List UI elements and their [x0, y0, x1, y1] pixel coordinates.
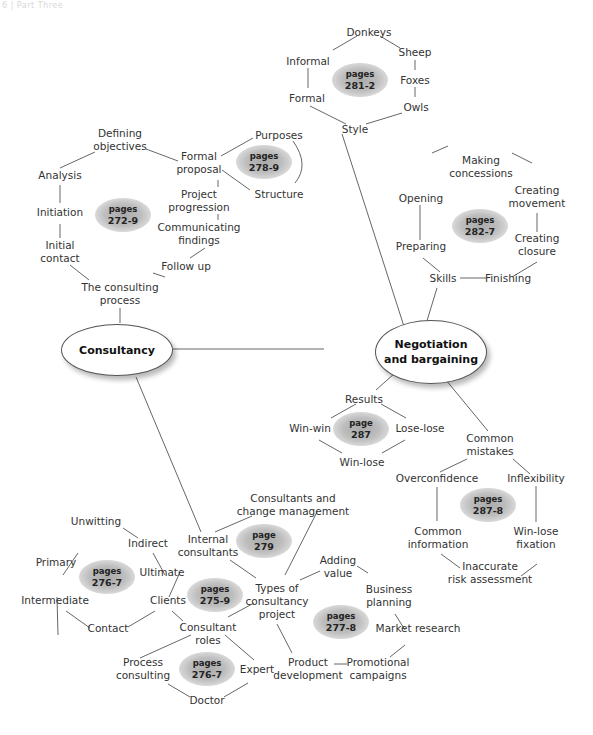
node-opening: Opening [399, 192, 443, 205]
page-ref-proposal: pages278-9 [236, 145, 292, 179]
page-ref-mistakes: pages287-8 [460, 488, 516, 522]
node-inaccurate-risk: Inaccuraterisk assessment [448, 560, 532, 586]
node-owls: Owls [403, 101, 428, 114]
node-ultimate: Ultimate [140, 566, 185, 579]
node-preparing: Preparing [396, 240, 446, 253]
node-expert: Expert [240, 663, 274, 676]
node-indirect: Indirect [128, 537, 168, 550]
node-win-lose-fixation: Win-losefixation [514, 525, 559, 551]
node-promotional-campaigns: Promotionalcampaigns [347, 656, 410, 682]
node-creating-closure: Creatingclosure [515, 232, 560, 258]
node-formal: Formal [289, 92, 325, 105]
node-internal-consultants: Internalconsultants [178, 533, 239, 559]
hub-negotiation-label-1: Negotiation [395, 337, 468, 352]
node-making-concessions: Makingconcessions [449, 154, 513, 180]
hub-consultancy[interactable]: Consultancy [61, 324, 173, 376]
node-unwitting: Unwitting [71, 515, 121, 528]
hub-consultancy-label: Consultancy [79, 343, 155, 358]
node-donkeys: Donkeys [346, 26, 391, 39]
node-consulting-process: The consultingprocess [81, 281, 158, 307]
node-results: Results [345, 393, 383, 406]
node-product-development: Productdevelopment [273, 656, 342, 682]
node-sheep: Sheep [399, 46, 432, 59]
page-ref-skills: pages282-7 [452, 209, 508, 243]
node-consultants-change: Consultants andchange management [237, 492, 349, 518]
node-defining-objectives: Definingobjectives [93, 127, 146, 153]
node-common-mistakes: Commonmistakes [466, 432, 513, 458]
node-initial-contact: Initialcontact [40, 239, 79, 265]
node-analysis: Analysis [38, 169, 81, 182]
node-style: Style [342, 123, 368, 136]
page-ref-clients-types: pages276-7 [79, 560, 135, 594]
node-clients: Clients [150, 594, 186, 607]
node-types-of-project: Types ofconsultancyproject [245, 582, 308, 621]
node-primary: Primary [36, 556, 77, 569]
node-win-lose: Win-lose [340, 456, 385, 469]
node-informal: Informal [286, 55, 330, 68]
node-market-research: Market research [376, 622, 461, 635]
page-ref-internal: page279 [236, 524, 292, 558]
page-ref-process: pages272-9 [95, 198, 151, 232]
node-inflexibility: Inflexibility [507, 472, 565, 485]
node-purposes: Purposes [255, 129, 303, 142]
node-formal-proposal: Formalproposal [176, 150, 221, 176]
node-contact: Contact [88, 622, 129, 635]
page-ref-clients: pages275-9 [187, 578, 243, 612]
hub-negotiation-label-2: and bargaining [384, 352, 478, 367]
node-adding-value: Addingvalue [320, 554, 357, 580]
node-lose-lose: Lose-lose [395, 422, 444, 435]
page-ref-style: pages281-2 [332, 63, 388, 97]
node-process-consulting: Processconsulting [116, 656, 170, 682]
node-project-progression: Projectprogression [168, 188, 229, 214]
node-initiation: Initiation [37, 206, 83, 219]
node-structure: Structure [255, 188, 304, 201]
page-ref-results: page287 [333, 412, 389, 446]
node-communicating-findings: Communicatingfindings [157, 221, 240, 247]
node-common-information: Commoninformation [408, 525, 469, 551]
node-win-win: Win-win [289, 422, 331, 435]
node-business-planning: Businessplanning [366, 583, 412, 609]
node-doctor: Doctor [189, 694, 224, 707]
node-overconfidence: Overconfidence [396, 472, 479, 485]
node-consultant-roles: Consultantroles [180, 621, 237, 647]
hub-negotiation[interactable]: Negotiation and bargaining [375, 320, 487, 384]
node-follow-up: Follow up [161, 260, 211, 273]
page-ref-project-types: pages277-8 [313, 605, 369, 639]
node-skills: Skills [430, 272, 457, 285]
node-foxes: Foxes [400, 74, 430, 87]
page-ref-roles: pages276-7 [179, 652, 235, 686]
node-intermediate: Intermediate [21, 594, 89, 607]
node-finishing: Finishing [485, 272, 531, 285]
node-creating-movement: Creatingmovement [509, 184, 566, 210]
